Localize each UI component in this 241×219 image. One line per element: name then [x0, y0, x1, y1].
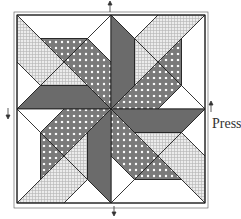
quadrant-bottom-left [17, 109, 111, 203]
quilt-block-diagram [0, 0, 241, 219]
press-label: Press [212, 116, 241, 132]
arrow-left-icon [6, 108, 10, 119]
quadrant-top-right [111, 15, 205, 109]
arrow-bottom-icon [112, 206, 116, 216]
arrow-top-icon [108, 1, 112, 12]
arrow-right-icon [209, 101, 213, 112]
quadrant-top-left [17, 15, 111, 109]
quadrant-bottom-right [111, 109, 205, 203]
